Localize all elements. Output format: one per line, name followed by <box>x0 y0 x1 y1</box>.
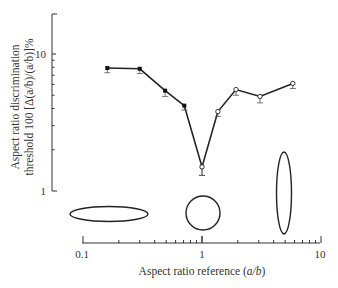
aspect-ratio-chart: 10 1 Aspect ratio discrimination thresho… <box>0 0 338 288</box>
x-axis-label: Aspect ratio reference (a/b) <box>139 265 266 278</box>
x-tick-0-1: 0.1 <box>75 248 89 260</box>
shape-illustrations <box>70 152 292 234</box>
y-axis <box>52 14 57 191</box>
y-axis-label-line2: threshold 100 [Δ(a/b)/(a/b)]% <box>23 38 36 175</box>
data-point <box>215 109 221 116</box>
y-tick-1: 1 <box>41 185 47 197</box>
horizontal-ellipse-icon <box>70 207 148 222</box>
y-tick-10: 10 <box>35 48 47 60</box>
circle-icon <box>186 196 220 230</box>
x-tick-1: 1 <box>199 248 205 260</box>
data-point <box>104 66 110 73</box>
x-axis <box>82 236 321 243</box>
data-point <box>290 81 296 88</box>
vertical-ellipse-icon <box>277 152 292 234</box>
y-axis-label-line1: Aspect ratio discrimination <box>9 44 22 169</box>
data-point <box>257 94 263 103</box>
data-point <box>199 165 205 176</box>
x-tick-10: 10 <box>315 248 327 260</box>
y-axis-label: Aspect ratio discrimination threshold 10… <box>9 38 36 175</box>
data-series <box>104 66 296 175</box>
